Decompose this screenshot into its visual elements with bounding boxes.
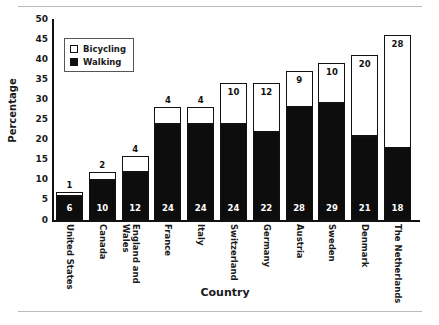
x-category-label: Germany [261, 224, 271, 267]
y-tick-label: 20 [28, 135, 48, 144]
x-category-label: Canada [97, 224, 107, 260]
y-tick-label: 5 [28, 195, 48, 204]
bar-value-bicycling: 10 [318, 68, 345, 77]
y-tick-label: 45 [28, 35, 48, 44]
bar-segment-walking: 12 [122, 172, 149, 220]
x-category-label: The Netherlands [393, 224, 403, 303]
bar-segment-bicycling [122, 156, 149, 172]
bar-value-walking: 12 [123, 204, 148, 213]
bar-group: 28 [286, 71, 313, 220]
bar-value-walking: 10 [90, 204, 115, 213]
bar-group: 10 [89, 172, 116, 220]
y-tick-label: 30 [28, 95, 48, 104]
bar-value-bicycling: 2 [89, 161, 116, 170]
x-category-label: Austria [294, 224, 304, 259]
bar-value-bicycling: 4 [122, 145, 149, 154]
bar-segment-walking: 22 [253, 132, 280, 220]
plot-area: 6110212424424424102212289291021201828 [52, 19, 420, 220]
bar-segment-walking: 28 [286, 107, 313, 220]
y-tick-label: 35 [28, 75, 48, 84]
x-axis-title: Country [170, 286, 280, 299]
x-axis-line [52, 220, 420, 222]
bar-segment-bicycling [187, 107, 214, 123]
x-category-label: Italy [196, 224, 206, 245]
bar-segment-walking: 24 [154, 124, 181, 220]
y-tick-label: 50 [28, 15, 48, 24]
bar-group: 22 [253, 83, 280, 220]
x-category-label: United States [65, 224, 75, 290]
bar-value-bicycling: 12 [253, 88, 280, 97]
bar-group: 6 [56, 192, 83, 220]
bar-segment-walking: 24 [187, 124, 214, 220]
bar-value-bicycling: 20 [351, 60, 378, 69]
bar-group: 12 [122, 156, 149, 220]
bar-group: 21 [351, 55, 378, 220]
y-tick-label: 15 [28, 155, 48, 164]
x-category-label: England and Wales [121, 224, 140, 284]
bar-segment-bicycling [384, 35, 411, 148]
bar-group: 24 [220, 83, 247, 220]
x-category-label: France [163, 224, 173, 256]
bar-value-walking: 24 [155, 204, 180, 213]
bar-segment-bicycling [89, 172, 116, 180]
bar-value-bicycling: 4 [187, 96, 214, 105]
bar-value-walking: 24 [188, 204, 213, 213]
bar-value-bicycling: 28 [384, 40, 411, 49]
bar-value-bicycling: 4 [154, 96, 181, 105]
y-tick-label: 40 [28, 55, 48, 64]
bar-group: 18 [384, 35, 411, 220]
bar-segment-walking: 10 [89, 180, 116, 220]
bar-group: 24 [154, 107, 181, 220]
x-category-label: Denmark [360, 224, 370, 267]
y-tick-label: 10 [28, 175, 48, 184]
bar-segment-walking: 6 [56, 196, 83, 220]
bar-value-bicycling: 10 [220, 88, 247, 97]
bar-chart: 50454035302520151050 Percentage Country … [0, 0, 439, 325]
bar-segment-walking: 24 [220, 124, 247, 220]
scan-artifact-line-bottom [18, 311, 422, 312]
bar-segment-bicycling [154, 107, 181, 123]
bar-group: 24 [187, 107, 214, 220]
bar-value-walking: 18 [385, 204, 410, 213]
bar-value-walking: 21 [352, 204, 377, 213]
bar-value-bicycling: 1 [56, 181, 83, 190]
bar-value-walking: 29 [319, 204, 344, 213]
bar-value-walking: 28 [287, 204, 312, 213]
bar-segment-walking: 21 [351, 136, 378, 220]
y-axis-title: Percentage [7, 61, 18, 161]
x-category-label: Switzerland [229, 224, 239, 281]
bar-segment-walking: 29 [318, 103, 345, 220]
y-tick-label: 25 [28, 115, 48, 124]
bar-value-walking: 6 [57, 204, 82, 213]
scan-artifact-line-top [18, 6, 422, 7]
y-tick-label: 0 [28, 216, 48, 225]
bar-value-walking: 24 [221, 204, 246, 213]
y-axis-ticks: 50454035302520151050 [26, 0, 48, 325]
bar-group: 29 [318, 63, 345, 220]
bar-segment-bicycling [56, 192, 83, 196]
bar-value-bicycling: 9 [286, 76, 313, 85]
bar-value-walking: 22 [254, 204, 279, 213]
bar-segment-walking: 18 [384, 148, 411, 220]
x-category-label: Sweden [327, 224, 337, 262]
